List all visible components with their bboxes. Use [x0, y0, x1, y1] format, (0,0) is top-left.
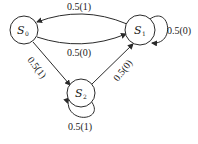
edge-s1-s0 [37, 14, 127, 24]
edge-s0-s1 [37, 34, 126, 44]
edge-label-s2-self: 0.5(1) [68, 121, 92, 133]
edge-label-s0-s2: 0.5(1) [25, 54, 49, 80]
svg-text:0: 0 [25, 30, 29, 37]
edge-label-s1-s0: 0.5(1) [67, 1, 91, 13]
svg-text:S: S [17, 24, 25, 37]
edge-label-s1-self: 0.5(0) [167, 25, 191, 37]
svg-text:2: 2 [83, 93, 87, 100]
state-diagram: 0.5(1) 0.5(0) 0.5(0) 0.5(1) 0.5(0) 0.5(1… [0, 0, 198, 144]
edge-label-s0-s1: 0.5(0) [67, 47, 91, 59]
svg-text:S: S [75, 87, 83, 100]
node-s1: S 1 [125, 15, 155, 45]
svg-text:S: S [134, 24, 142, 37]
svg-text:1: 1 [142, 30, 146, 37]
node-s2: S 2 [67, 79, 95, 107]
node-s0: S 0 [10, 16, 38, 44]
